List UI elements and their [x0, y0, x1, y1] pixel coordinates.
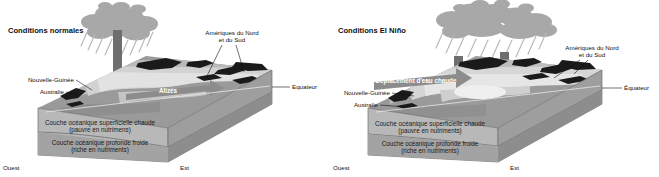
label-americas-line2: et du Sud: [219, 36, 246, 43]
label-west: Ouest: [3, 164, 20, 171]
cold-layer-label-line2: (riche en nutriments): [401, 147, 459, 155]
cloud-cluster-icon: [436, 0, 557, 39]
warm-water-displacement-label: Déplacement d'eau chaude: [376, 77, 457, 85]
label-australia: Australie: [354, 101, 379, 108]
label-new-guinea: Nouvelle-Guinée: [28, 76, 75, 83]
label-americas-line2: et du Sud: [579, 51, 606, 58]
label-east: Est: [510, 164, 519, 171]
label-equator: Équateur: [624, 84, 649, 91]
label-east: Est: [180, 164, 189, 171]
panel-title-normal: Conditions normales: [8, 26, 84, 35]
cold-layer-label-line2: (riche en nutriments): [71, 146, 129, 154]
label-west: Ouest: [333, 164, 350, 171]
label-new-guinea: Nouvelle-Guinée: [344, 89, 391, 96]
label-australia: Australie: [40, 88, 65, 95]
label-americas-line1: Amériques du Nord: [565, 44, 619, 51]
label-americas-line1: Amériques du Nord: [205, 29, 259, 36]
panel-title-elnino: Conditions El Niño: [338, 26, 406, 35]
warm-layer-label-line2: (pauvre en nutriments): [398, 127, 461, 135]
label-equator: Equateur: [292, 83, 317, 90]
warm-layer-label-line2: (pauvre en nutrimens): [69, 126, 131, 134]
diagram-panel-normal-conditions: Alizés Couche océanique superficielle ch…: [0, 0, 329, 177]
trade-wind-label: Alizés: [159, 87, 178, 94]
diagram-panel-elnino-conditions: Déplacement d'eau chaude Couche océaniqu…: [330, 0, 659, 177]
